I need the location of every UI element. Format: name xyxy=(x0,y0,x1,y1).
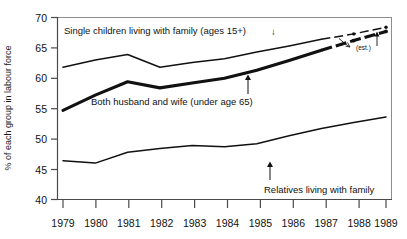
annotation-estimate: (est.) xyxy=(356,44,371,52)
x-tick-label: 1979 xyxy=(51,217,75,229)
x-tick-label: 1989 xyxy=(374,217,398,229)
x-tick-label: 1988 xyxy=(347,217,371,229)
y-tick-label: 45 xyxy=(35,164,47,176)
y-axis-title: % of each group in labour force xyxy=(3,45,13,170)
annotation-single-children-arrow-icon: ↓ xyxy=(271,26,276,37)
x-tick-label: 1982 xyxy=(150,217,174,229)
y-tick-label: 65 xyxy=(35,42,47,54)
annotation-relatives: Relatives living with family xyxy=(264,184,375,195)
x-tick-label: 1981 xyxy=(117,217,141,229)
estimated-point-marker xyxy=(384,26,387,29)
x-tick-label: 1985 xyxy=(249,217,273,229)
x-tick-label: 1983 xyxy=(183,217,207,229)
y-tick-label: 70 xyxy=(35,12,47,24)
x-tick-label: 1986 xyxy=(282,217,306,229)
estimated-point-marker xyxy=(352,32,355,35)
x-tick-label: 1980 xyxy=(84,217,108,229)
y-tick-label: 55 xyxy=(35,103,47,115)
x-tick-label: 1984 xyxy=(216,217,240,229)
y-tick-label: 40 xyxy=(35,194,47,206)
y-tick-label: 60 xyxy=(35,72,47,84)
estimated-point-marker xyxy=(384,30,388,34)
annotation-husband-wife: Both husband and wife (under age 65) xyxy=(91,96,253,107)
annotation-single-children: Single children living with family (ages… xyxy=(64,25,246,36)
chart-figure: 70 65 60 55 50 45 40 1979 1980 1981 xyxy=(0,0,407,239)
estimated-point-marker xyxy=(352,39,356,43)
line-chart-canvas: 70 65 60 55 50 45 40 1979 1980 1981 xyxy=(0,0,407,239)
y-tick-label: 50 xyxy=(35,133,47,145)
x-tick-label: 1987 xyxy=(315,217,339,229)
